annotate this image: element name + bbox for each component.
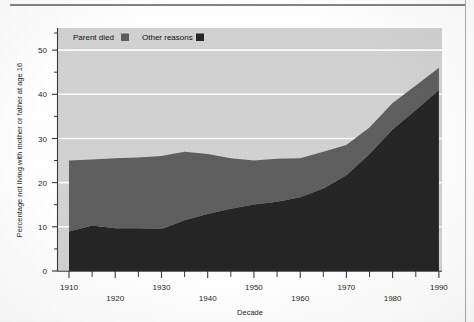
x-tick-label-1940: 1940 [199, 294, 217, 303]
y-tick-label-40: 40 [38, 90, 47, 99]
y-tick-label-50: 50 [38, 46, 47, 55]
scan-artifact-right-line [465, 0, 466, 322]
y-tick-label-10: 10 [38, 223, 47, 232]
y-axis-minor-ticks [54, 33, 57, 249]
legend-swatch-other-reasons [196, 34, 204, 42]
y-axis-title: Percentage not living with mother or fat… [15, 63, 24, 237]
legend-label-parent-died: Parent died [73, 33, 114, 42]
x-axis-title: Decade [237, 308, 263, 317]
figure: 0 10 20 30 40 50 Percentage not living w… [0, 0, 474, 322]
x-tick-label-1960: 1960 [291, 294, 309, 303]
legend-swatch-parent-died [121, 34, 129, 42]
x-axis-ticks [69, 271, 439, 278]
x-tick-label-1920: 1920 [106, 294, 124, 303]
x-tick-label-1910: 1910 [60, 283, 78, 292]
scan-artifact-top-line [10, 4, 465, 6]
x-tick-label-1970: 1970 [338, 283, 356, 292]
y-tick-label-0: 0 [43, 267, 48, 276]
y-tick-label-20: 20 [38, 179, 47, 188]
y-tick-label-30: 30 [38, 135, 47, 144]
x-tick-label-1990: 1990 [430, 283, 448, 292]
stacked-area-chart: 0 10 20 30 40 50 Percentage not living w… [0, 0, 474, 322]
legend-label-other-reasons: Other reasons [142, 33, 193, 42]
x-tick-label-1930: 1930 [153, 283, 171, 292]
x-tick-label-1980: 1980 [384, 294, 402, 303]
x-tick-label-1950: 1950 [245, 283, 263, 292]
